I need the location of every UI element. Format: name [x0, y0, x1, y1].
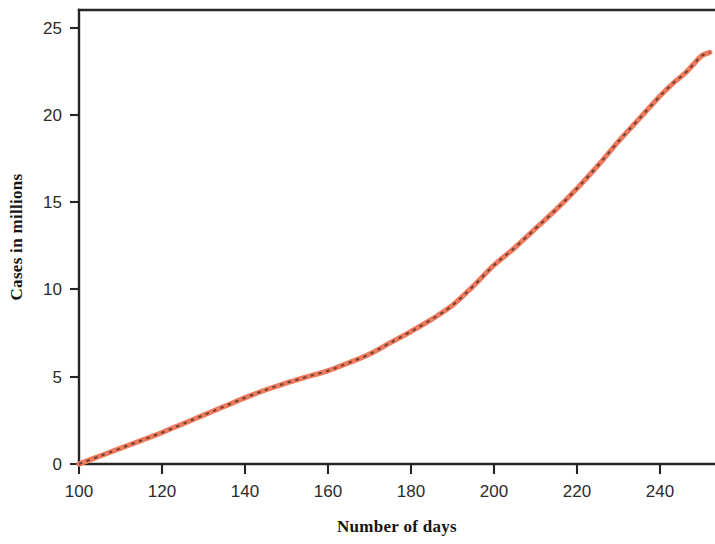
y-tick-label-20: 20 — [43, 106, 62, 125]
x-tick-label-200: 200 — [480, 482, 508, 501]
x-tick-label-240: 240 — [646, 482, 674, 501]
y-tick-label-10: 10 — [43, 280, 62, 299]
chart-container: 25 20 15 10 5 0 100 120 140 160 180 200 — [0, 0, 715, 544]
x-tick-label-180: 180 — [397, 482, 425, 501]
y-tick-label-5: 5 — [53, 368, 62, 387]
chart-background — [0, 0, 715, 544]
y-tick-label-15: 15 — [43, 193, 62, 212]
line-chart: 25 20 15 10 5 0 100 120 140 160 180 200 — [0, 0, 715, 544]
x-tick-label-160: 160 — [314, 482, 342, 501]
y-axis-title: Cases in millions — [7, 173, 26, 300]
x-axis-title: Number of days — [337, 517, 457, 536]
x-tick-label-120: 120 — [148, 482, 176, 501]
x-tick-label-140: 140 — [231, 482, 259, 501]
x-tick-label-220: 220 — [563, 482, 591, 501]
x-tick-label-100: 100 — [65, 482, 93, 501]
y-tick-label-25: 25 — [43, 19, 62, 38]
y-tick-label-0: 0 — [53, 455, 62, 474]
